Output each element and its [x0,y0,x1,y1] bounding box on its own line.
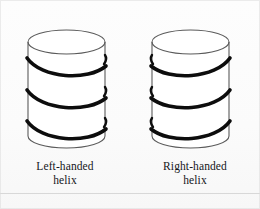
caption-left-handed: Left-handed helix [0,160,130,187]
caption-left-line1: Left-handed [36,160,93,172]
right-handed-helix-drawing [130,0,260,160]
panel-right-handed: Right-handed helix [130,0,260,209]
caption-left-line2: helix [0,174,130,188]
helix-comparison-figure: Left-handed helix [0,0,260,209]
panel-left-handed: Left-handed helix [0,0,130,209]
baseline-rule [0,193,260,194]
caption-right-line1: Right-handed [163,160,227,172]
caption-right-handed: Right-handed helix [130,160,260,187]
left-handed-helix-drawing [0,0,130,160]
cylinder-top-ellipse [152,30,229,54]
caption-right-line2: helix [130,174,260,188]
cylinder-top-ellipse [28,30,105,54]
